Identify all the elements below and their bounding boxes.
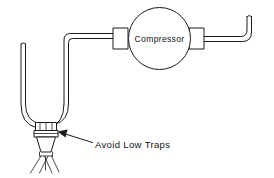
compressor-label: Compressor [135,34,185,44]
compressor-low-trap-diagram: Compressor Avoid Low Traps [0,0,274,178]
arrow-head-icon [58,130,68,138]
avoid-low-traps-label: Avoid Low Traps [95,139,170,150]
left-flange [113,28,128,49]
spray-pattern [31,156,60,173]
coupling-nut [34,123,58,138]
spray-nozzle [37,137,56,156]
inlet-pipe [64,34,113,105]
callout-arrow [58,130,93,143]
dead-leg-pipe [21,43,40,128]
outlet-pipe [203,15,252,41]
right-flange [189,28,204,49]
diagram-canvas: Compressor Avoid Low Traps [0,0,274,178]
